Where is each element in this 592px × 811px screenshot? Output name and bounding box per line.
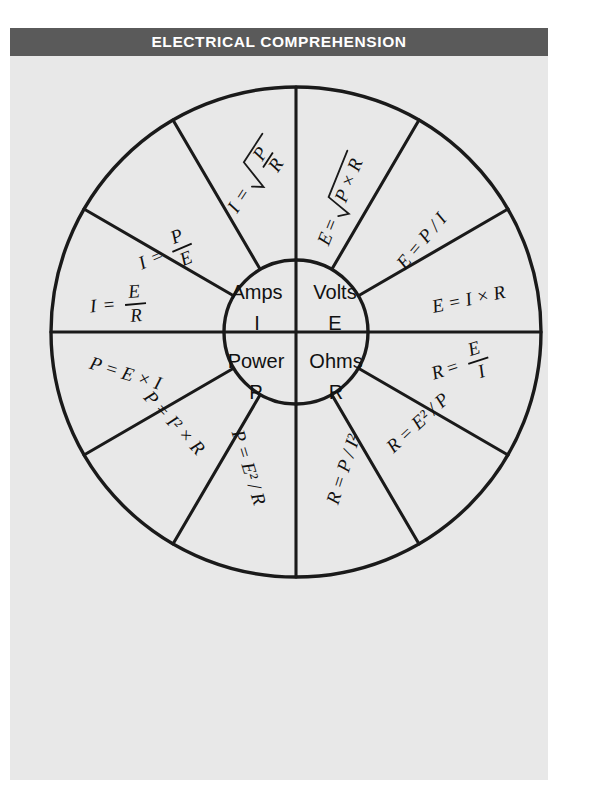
sector-2-equals: = — [103, 293, 116, 315]
center-symbol-volts: E — [328, 312, 341, 334]
wheel-svg: Amps I Volts E Power P Ohms R I = P — [10, 56, 548, 780]
page-title: ELECTRICAL COMPREHENSION — [151, 33, 406, 51]
section-header-bar: ELECTRICAL COMPREHENSION — [10, 28, 548, 56]
worksheet-page: ELECTRICAL COMPREHENSION — [10, 28, 548, 780]
center-label-ohms: Ohms — [309, 350, 362, 372]
center-label-amps: Amps — [231, 281, 282, 303]
ohms-law-wheel: Amps I Volts E Power P Ohms R I = P — [10, 56, 548, 780]
sector-2-numerator: E — [126, 280, 141, 302]
sector-2-denominator: R — [128, 304, 143, 326]
center-label-volts: Volts — [313, 281, 356, 303]
center-symbol-amps: I — [254, 312, 260, 334]
center-symbol-power: P — [249, 381, 262, 403]
center-label-power: Power — [228, 350, 285, 372]
center-symbol-ohms: R — [329, 381, 343, 403]
